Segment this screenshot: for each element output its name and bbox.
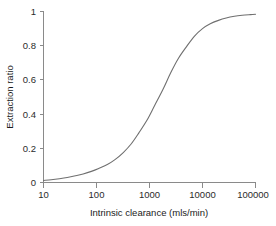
x-axis-tick-labels: 10 100 1000 10000 100000: [38, 189, 269, 200]
x-tick-label-10000: 10000: [189, 189, 215, 200]
x-tick-label-10: 10: [38, 189, 49, 200]
y-axis-tick-labels: 0 0.2 0.4 0.6 0.8 1: [23, 6, 36, 188]
y-tick-label-0: 0: [31, 177, 36, 188]
y-tick-label-1: 1: [31, 6, 36, 17]
y-tick-label-0-2: 0.2: [23, 143, 36, 154]
x-axis-title: Intrinsic clearance (mls/min): [90, 207, 208, 218]
y-tick-label-0-4: 0.4: [23, 109, 36, 120]
x-tick-label-100: 100: [89, 189, 105, 200]
chart-figure: 0 0.2 0.4 0.6 0.8 1 10 100 1000 10000 10…: [0, 0, 276, 226]
y-axis-ticks: [40, 12, 44, 183]
y-tick-label-0-8: 0.8: [23, 40, 36, 51]
extraction-ratio-curve: [44, 14, 256, 180]
x-tick-label-1000: 1000: [139, 189, 160, 200]
y-tick-label-0-6: 0.6: [23, 74, 36, 85]
x-tick-label-100000: 100000: [237, 189, 269, 200]
y-axis-title: Extraction ratio: [4, 65, 15, 128]
extraction-ratio-line-chart: 0 0.2 0.4 0.6 0.8 1 10 100 1000 10000 10…: [0, 0, 276, 226]
x-axis-ticks: [44, 183, 256, 188]
axis-spines: [44, 12, 256, 183]
